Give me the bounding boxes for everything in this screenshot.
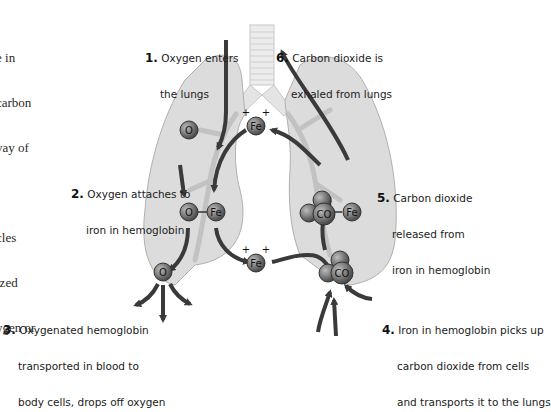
step-2-label: 2. Oxygen attaches to iron in hemoglobin <box>71 164 190 248</box>
iron-atom-lower: Fe + + <box>242 244 270 272</box>
svg-text:+: + <box>242 107 250 118</box>
svg-text:Fe: Fe <box>346 207 357 218</box>
svg-text:CO: CO <box>335 268 350 279</box>
svg-text:+: + <box>262 107 270 118</box>
svg-text:O: O <box>159 267 167 278</box>
svg-text:+: + <box>262 244 270 255</box>
iron-atom-bound: Fe <box>207 203 225 221</box>
arrow-cells-1 <box>318 292 330 332</box>
svg-text:Fe: Fe <box>250 258 261 269</box>
svg-text:Fe: Fe <box>210 207 221 218</box>
iron-atom-co2: Fe <box>343 203 361 221</box>
svg-text:+: + <box>242 244 250 255</box>
step-3-label: 3. Oxygenated hemoglobin transported in … <box>3 300 165 412</box>
svg-text:CO: CO <box>317 209 332 220</box>
step-1-label: 1. Oxygen enters the lungs <box>145 28 239 112</box>
step-6-label: 6. Carbon dioxide is exhaled from lungs <box>276 28 392 112</box>
oxygen-atom-top: O <box>180 121 198 139</box>
step-4-label: 4. Iron in hemoglobin picks up carbon di… <box>382 300 551 412</box>
arrow-drop-o-3 <box>170 284 190 304</box>
step-5-label: 5. Carbon dioxide released from iron in … <box>377 168 490 288</box>
arrow-cells-2 <box>334 300 336 336</box>
svg-text:Fe: Fe <box>250 121 261 132</box>
arrow-cells-3 <box>346 286 372 299</box>
svg-text:O: O <box>185 125 193 136</box>
oxygen-atom-delivered: O <box>154 263 172 281</box>
